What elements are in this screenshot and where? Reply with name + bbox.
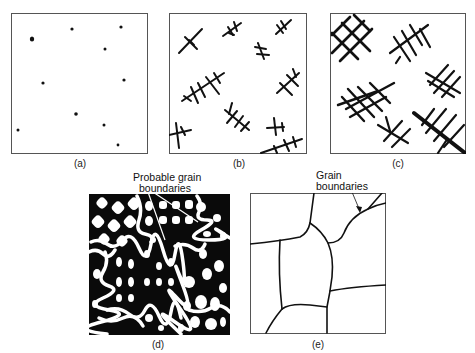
solidified-structure-diagram: [89, 194, 230, 335]
caption-d: (d): [138, 339, 178, 350]
caption-b: (b): [219, 158, 259, 169]
caption-c: (c): [378, 158, 418, 169]
grain-structure-diagram: [250, 193, 386, 334]
panel-c-dendrite-growth: [330, 13, 466, 154]
panel-b-dendrite-start: [169, 13, 307, 154]
annotation-grain-boundaries: Grain boundaries: [316, 170, 368, 192]
caption-e: (e): [298, 339, 338, 350]
nuclei-diagram: [11, 13, 148, 154]
caption-a: (a): [60, 158, 100, 169]
panel-a-nuclei: [11, 13, 148, 154]
annotation-probable-grain-boundaries: Probable grain boundaries: [133, 172, 201, 194]
panel-e-grain-structure: [250, 193, 386, 334]
panel-d-solidified: [89, 194, 230, 335]
early-dendrites-diagram: [169, 13, 307, 154]
grown-dendrites-diagram: [330, 13, 466, 154]
